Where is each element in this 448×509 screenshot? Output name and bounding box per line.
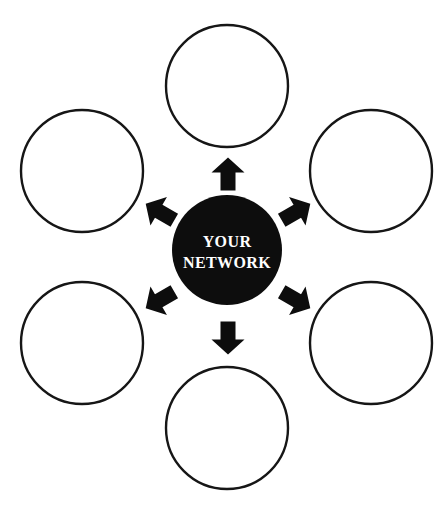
- node-circle-top[interactable]: [166, 25, 288, 147]
- arrow-up-right: [273, 189, 318, 234]
- arrow-up: [212, 158, 245, 191]
- hub-circle[interactable]: [172, 195, 282, 305]
- arrow-down-left: [137, 277, 182, 322]
- node-circle-bottom-right[interactable]: [310, 282, 432, 404]
- diagram-canvas: YOUR NETWORK: [0, 0, 448, 509]
- node-circle-bottom[interactable]: [166, 367, 288, 489]
- arrow-down: [212, 322, 245, 355]
- arrow-down-right: [273, 277, 318, 322]
- node-circle-top-left[interactable]: [21, 110, 143, 232]
- arrow-up-left: [137, 189, 182, 234]
- network-diagram: YOUR NETWORK: [0, 0, 448, 509]
- hub-group[interactable]: YOUR NETWORK: [172, 195, 282, 305]
- node-circle-bottom-left[interactable]: [21, 282, 143, 404]
- hub-label-line-2: NETWORK: [183, 254, 271, 271]
- hub-label-line-1: YOUR: [203, 233, 252, 250]
- node-circle-top-right[interactable]: [310, 110, 432, 232]
